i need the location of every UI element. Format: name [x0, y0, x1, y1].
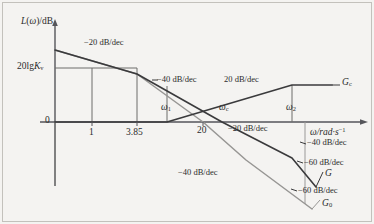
omega-2-subscript: 2 — [293, 105, 296, 112]
x-axis-label-exponent: −1 — [339, 126, 346, 133]
omega-c-subscript: c — [226, 105, 229, 112]
curve-label-gc-symbol: G — [342, 77, 349, 87]
gain-level-subscript: v — [40, 64, 43, 71]
slope-minus60-corrected-label: −60 dB/dec — [304, 158, 344, 167]
slope-minus40-corrected-label: −40 dB/dec — [307, 138, 347, 147]
leader-slope-minus60-original — [291, 189, 297, 191]
x-axis-label-text: ω/rad·s — [310, 127, 339, 137]
omega-2-marker: ω2 — [286, 103, 296, 113]
slope-plus20-compensator-label: 20 dB/dec — [224, 75, 259, 84]
xtick-label-20: 20 — [197, 126, 207, 136]
xtick-label-385: 3.85 — [126, 128, 143, 138]
curve-label-g0: G0 — [322, 199, 332, 209]
omega-c-marker: ωc — [219, 103, 229, 113]
omega-1-subscript: 1 — [168, 105, 171, 112]
omega-2-symbol: ω — [286, 102, 293, 112]
bode-plot-figure: L(ω)/dB ω/rad·s−1 0 20lgKv 1 3.85 20 ω1 … — [0, 0, 374, 224]
omega-1-marker: ω1 — [161, 103, 171, 113]
curve-label-g-symbol: G — [325, 168, 332, 178]
curve-label-g: G — [325, 169, 332, 179]
x-axis-label: ω/rad·s−1 — [310, 127, 346, 137]
curve-label-gc: Gc — [342, 78, 352, 88]
curve-label-gc-subscript: c — [349, 80, 352, 87]
slope-minus40-original-label: −40 dB/dec — [178, 168, 218, 177]
gain-level-prefix: 20lg — [17, 61, 34, 71]
y-axis-label: L(ω)/dB — [21, 17, 53, 27]
slope-minus40-open-label: −40 dB/dec — [157, 75, 197, 84]
origin-label: 0 — [45, 116, 50, 126]
omega-1-symbol: ω — [161, 102, 168, 112]
xtick-label-1: 1 — [89, 128, 94, 138]
curve-label-g0-subscript: 0 — [329, 201, 332, 208]
x-axis-arrowhead — [360, 119, 368, 125]
slope-minus20-corrected-label: −20 dB/dec — [228, 124, 268, 133]
leader-slope-minus60-corrected — [297, 161, 303, 163]
curve-label-g0-symbol: G — [322, 198, 329, 208]
slope-minus60-original-label: −60 dB/dec — [298, 186, 338, 195]
leader-curve-label-g0 — [312, 200, 320, 209]
slope-minus20-uncorrected-label: −20 dB/dec — [84, 38, 124, 47]
gain-level-label: 20lgKv — [17, 62, 43, 72]
omega-c-symbol: ω — [219, 102, 226, 112]
